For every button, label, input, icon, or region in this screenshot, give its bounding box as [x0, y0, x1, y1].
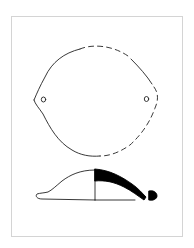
perforation-right [144, 97, 148, 102]
profile-section-fill [95, 169, 146, 200]
profile-terminal [149, 191, 157, 201]
outline-dashed-top [80, 46, 128, 56]
profile-section [36, 169, 157, 200]
outline-solid-upper-left [34, 49, 80, 100]
outline-solid-upper-right [131, 59, 152, 84]
outline-solid-lower-left [34, 100, 100, 156]
profile-exterior-left [36, 170, 95, 200]
plan-view [34, 46, 158, 156]
artifact-drawing [0, 0, 194, 248]
perforation-left [41, 97, 45, 102]
outline-dashed-right [100, 87, 158, 156]
